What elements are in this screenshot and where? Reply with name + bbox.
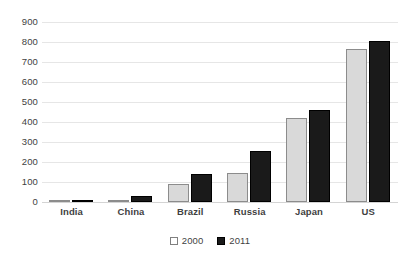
- y-axis-tick-label: 0: [0, 197, 38, 207]
- x-axis-tick-label: US: [339, 206, 398, 217]
- bar-group: [339, 22, 398, 202]
- x-axis-tick-label: Russia: [220, 206, 279, 217]
- legend-swatch-icon: [170, 237, 178, 245]
- bar: [309, 110, 330, 202]
- bar: [286, 118, 307, 202]
- y-axis-tick-label: 500: [0, 97, 38, 107]
- bar-group: [42, 22, 101, 202]
- y-axis-tick-label: 200: [0, 157, 38, 167]
- bars-layer: [42, 22, 398, 202]
- legend-item[interactable]: 2011: [217, 236, 250, 246]
- bar: [131, 196, 152, 202]
- bar: [346, 49, 367, 202]
- legend-swatch-icon: [217, 237, 225, 245]
- bar-group: [279, 22, 338, 202]
- bar: [108, 200, 129, 202]
- bar: [168, 184, 189, 202]
- bar-group: [161, 22, 220, 202]
- x-axis-tick-label: Japan: [279, 206, 338, 217]
- y-axis-tick-label: 400: [0, 117, 38, 127]
- bar: [72, 200, 93, 202]
- y-axis: 0100200300400500600700800900: [0, 22, 38, 202]
- y-axis-tick-label: 700: [0, 57, 38, 67]
- bar: [250, 151, 271, 202]
- x-axis-tick-label: Brazil: [161, 206, 220, 217]
- legend-item[interactable]: 2000: [170, 236, 204, 246]
- x-axis-tick-label: India: [42, 206, 101, 217]
- bar: [49, 200, 70, 202]
- bar-group: [101, 22, 160, 202]
- y-axis-tick-label: 600: [0, 77, 38, 87]
- bar: [369, 41, 390, 202]
- legend-label: 2000: [182, 236, 204, 246]
- bar: [191, 174, 212, 202]
- x-axis: IndiaChinaBrazilRussiaJapanUS: [42, 206, 398, 224]
- bar: [227, 173, 248, 202]
- y-axis-tick-label: 900: [0, 17, 38, 27]
- x-axis-tick-label: China: [101, 206, 160, 217]
- gridline: [42, 202, 398, 203]
- bar-group: [220, 22, 279, 202]
- legend-label: 2011: [229, 236, 250, 246]
- bar-chart: 0100200300400500600700800900 IndiaChinaB…: [0, 0, 420, 262]
- chart-legend: 20002011: [0, 236, 420, 246]
- y-axis-tick-label: 800: [0, 37, 38, 47]
- y-axis-tick-label: 300: [0, 137, 38, 147]
- y-axis-tick-label: 100: [0, 177, 38, 187]
